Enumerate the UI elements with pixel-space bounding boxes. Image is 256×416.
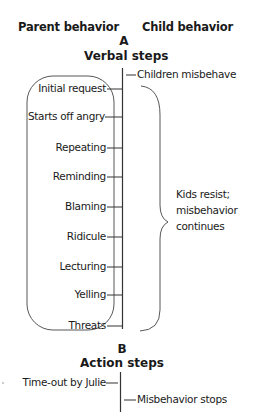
section-a-letter: A — [114, 34, 134, 48]
step-repeating: Repeating — [56, 141, 107, 153]
step-starts-off-angry: Starts off angry — [28, 110, 105, 122]
section-b-title: Action steps — [80, 356, 164, 370]
child-response-line-2: misbehavior — [176, 204, 237, 216]
step-initial-request: Initial request — [38, 82, 106, 94]
step-reminding: Reminding — [53, 170, 106, 182]
section-a-title: Verbal steps — [84, 49, 164, 63]
child-response-line-3: continues — [176, 220, 224, 232]
step-threats: Threats — [68, 319, 106, 331]
children-misbehave-label: Children misbehave — [137, 68, 236, 80]
step-blaming: Blaming — [65, 200, 106, 212]
step-yelling: Yelling — [75, 288, 106, 300]
parent-behavior-header: Parent behavior — [18, 20, 119, 34]
time-out-label: Time-out by Julie — [23, 376, 106, 388]
misbehavior-stops-label: Misbehavior stops — [137, 393, 227, 405]
child-response-line-1: Kids resist; — [176, 188, 230, 200]
step-lecturing: Lecturing — [59, 260, 106, 272]
section-b-letter: B — [112, 342, 132, 356]
child-behavior-header: Child behavior — [142, 20, 233, 34]
step-ridicule: Ridicule — [67, 230, 106, 242]
